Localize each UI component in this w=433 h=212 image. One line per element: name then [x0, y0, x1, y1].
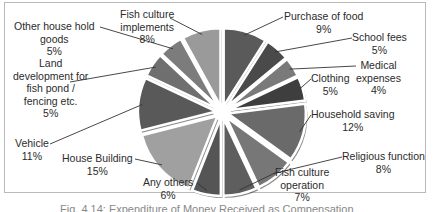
label-name: Purchase of food — [284, 10, 363, 23]
label-clothing: Clothing 5% — [311, 72, 350, 97]
label-name: House Building — [62, 152, 133, 165]
label-pct: 5% — [14, 45, 95, 58]
label-land-development: Land development for fish pond / fencing… — [13, 57, 88, 120]
label-any-others: Any others 6% — [143, 176, 193, 201]
leader-line — [290, 66, 356, 69]
label-name: Land — [13, 57, 88, 70]
leader-line — [275, 38, 352, 52]
label-name: Household saving — [311, 108, 394, 121]
label-name: Other house hold — [14, 20, 95, 33]
figure-caption: Fig. 4.14: Expenditure of Money Received… — [60, 203, 354, 212]
label-pct: 5% — [13, 107, 88, 120]
label-fish-culture-implements: Fish culture implements 8% — [120, 8, 174, 46]
label-pct: 7% — [275, 191, 329, 204]
label-name: operation — [275, 179, 329, 192]
label-name: fencing etc. — [13, 95, 88, 108]
label-other-house-hold-goods: Other house hold goods 5% — [14, 20, 95, 58]
leader-line — [170, 18, 202, 35]
label-name: Fish culture — [120, 8, 174, 21]
label-name: Clothing — [311, 72, 350, 85]
label-pct: 8% — [120, 33, 174, 46]
label-name: Fish culture — [275, 166, 329, 179]
label-pct: 11% — [15, 150, 49, 163]
label-medical-expenses: Medical expenses 4% — [356, 59, 401, 97]
label-household-saving: Household saving 12% — [311, 108, 394, 133]
label-pct: 6% — [143, 189, 193, 202]
label-name: Religious function — [342, 150, 425, 163]
label-vehicle: Vehicle 11% — [15, 137, 49, 162]
label-name: development for — [13, 70, 88, 83]
label-house-building: House Building 15% — [62, 152, 133, 177]
label-pct: 15% — [62, 165, 133, 178]
label-pct: 5% — [352, 44, 407, 57]
label-religious-function: Religious function 8% — [342, 150, 425, 175]
label-school-fees: School fees 5% — [352, 31, 407, 56]
label-pct: 12% — [311, 121, 394, 134]
label-name: implements — [120, 21, 174, 34]
pie-center — [213, 103, 231, 121]
label-name: goods — [14, 33, 95, 46]
label-name: School fees — [352, 31, 407, 44]
leader-line — [244, 17, 283, 35]
label-pct: 4% — [356, 84, 401, 97]
label-name: fish pond / — [13, 82, 88, 95]
label-name: expenses — [356, 72, 401, 85]
label-name: Vehicle — [15, 137, 49, 150]
label-name: Any others — [143, 176, 193, 189]
label-name: Medical — [356, 59, 401, 72]
label-pct: 8% — [342, 163, 425, 176]
label-pct: 5% — [311, 85, 350, 98]
label-fish-culture-operation: Fish culture operation 7% — [275, 166, 329, 204]
